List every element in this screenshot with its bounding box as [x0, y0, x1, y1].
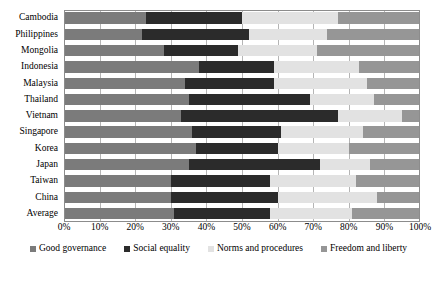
- bar-segment: [327, 29, 420, 40]
- legend-label: Social equality: [133, 244, 190, 254]
- legend-item[interactable]: Freedom and liberty: [321, 244, 407, 254]
- bar-segment: [189, 94, 310, 105]
- x-axis-tick: 50%: [233, 223, 250, 233]
- y-axis-label: Philippines: [0, 26, 61, 42]
- legend-swatch-icon: [321, 246, 327, 252]
- stacked-bar: [64, 12, 420, 23]
- bar-row: [64, 140, 420, 156]
- bar-segment: [374, 94, 420, 105]
- bar-segment: [310, 94, 374, 105]
- bar-row: [64, 75, 420, 91]
- bar-segment: [281, 126, 363, 137]
- bar-row: [64, 10, 420, 26]
- y-axis-label: Taiwan: [0, 173, 61, 189]
- legend-item[interactable]: Norms and procedures: [208, 244, 303, 254]
- legend-swatch-icon: [208, 246, 214, 252]
- stacked-bar: [64, 94, 420, 105]
- bar-segment: [64, 143, 196, 154]
- bar-segment: [64, 12, 146, 23]
- bar-segment: [171, 192, 278, 203]
- bar-row: [64, 206, 420, 222]
- legend-label: Norms and procedures: [217, 244, 303, 254]
- x-axis-tick: 100%: [409, 223, 431, 233]
- stacked-bar: [64, 192, 420, 203]
- stacked-bar: [64, 29, 420, 40]
- bar-segment: [181, 110, 338, 121]
- legend-label: Good governance: [39, 244, 106, 254]
- bar-row: [64, 189, 420, 205]
- bar-segment: [317, 45, 420, 56]
- x-axis-tick: 20%: [126, 223, 143, 233]
- bar-segment: [64, 78, 185, 89]
- bar-segment: [196, 143, 278, 154]
- stacked-bar: [64, 175, 420, 186]
- y-axis-label: Malaysia: [0, 75, 61, 91]
- bar-segment: [171, 175, 271, 186]
- bar-segment: [64, 175, 171, 186]
- bar-segment: [64, 192, 171, 203]
- bar-segment: [274, 61, 359, 72]
- y-axis-label: Korea: [0, 140, 61, 156]
- y-axis-label: Singapore: [0, 124, 61, 140]
- y-axis-label: Vietnam: [0, 108, 61, 124]
- bar-segment: [64, 94, 189, 105]
- bar-segment: [64, 159, 189, 170]
- bar-segment: [402, 110, 420, 121]
- stacked-bar: [64, 208, 420, 219]
- legend-swatch-icon: [30, 246, 36, 252]
- bar-segment: [174, 208, 270, 219]
- stacked-bar: [64, 126, 420, 137]
- plot-area: [64, 10, 420, 222]
- bar-rows: [64, 10, 420, 222]
- bar-segment: [142, 29, 249, 40]
- y-axis-category-labels: CambodiaPhilippinesMongoliaIndonesiaMala…: [0, 10, 61, 222]
- bar-row: [64, 173, 420, 189]
- bar-segment: [64, 126, 192, 137]
- stacked-bar-chart: CambodiaPhilippinesMongoliaIndonesiaMala…: [0, 0, 441, 284]
- y-axis-label: Cambodia: [0, 10, 61, 26]
- bar-segment: [199, 61, 274, 72]
- bar-segment: [192, 126, 281, 137]
- bar-row: [64, 124, 420, 140]
- bar-segment: [338, 12, 420, 23]
- stacked-bar: [64, 159, 420, 170]
- stacked-bar: [64, 143, 420, 154]
- y-axis-label: China: [0, 189, 61, 205]
- bar-segment: [64, 61, 199, 72]
- chart-legend: Good governanceSocial equalityNorms and …: [30, 241, 420, 257]
- bar-segment: [189, 159, 321, 170]
- bar-segment: [64, 208, 174, 219]
- bar-segment: [363, 126, 420, 137]
- x-axis-tick-labels: 0%10%20%30%40%50%60%70%80%90%100%: [64, 223, 420, 237]
- bar-segment: [238, 45, 316, 56]
- bar-segment: [367, 78, 420, 89]
- bar-segment: [64, 45, 164, 56]
- bar-segment: [242, 12, 338, 23]
- bar-segment: [164, 45, 239, 56]
- bar-row: [64, 91, 420, 107]
- bar-row: [64, 43, 420, 59]
- y-axis-label: Mongolia: [0, 43, 61, 59]
- x-axis-tick: 80%: [340, 223, 357, 233]
- bar-segment: [185, 78, 274, 89]
- bar-segment: [270, 208, 352, 219]
- legend-label: Freedom and liberty: [330, 244, 407, 254]
- stacked-bar: [64, 78, 420, 89]
- bar-segment: [274, 78, 367, 89]
- x-axis-tick: 60%: [269, 223, 286, 233]
- bar-segment: [338, 110, 402, 121]
- bar-segment: [278, 143, 349, 154]
- stacked-bar: [64, 61, 420, 72]
- bar-segment: [270, 175, 355, 186]
- y-axis-label: Indonesia: [0, 59, 61, 75]
- bar-segment: [352, 208, 420, 219]
- y-axis-label: Thailand: [0, 91, 61, 107]
- legend-item[interactable]: Good governance: [30, 244, 106, 254]
- y-axis-label: Average: [0, 206, 61, 222]
- bar-segment: [278, 192, 378, 203]
- bar-row: [64, 26, 420, 42]
- bar-segment: [370, 159, 420, 170]
- x-axis-tick: 70%: [304, 223, 321, 233]
- legend-item[interactable]: Social equality: [124, 244, 190, 254]
- bar-segment: [146, 12, 242, 23]
